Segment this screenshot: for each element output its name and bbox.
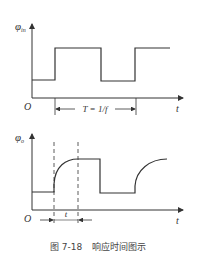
bottom-x-label: t	[176, 215, 179, 226]
bottom-plot: φo O t t	[15, 131, 183, 226]
top-x-label: t	[176, 103, 179, 114]
top-plot: φin O t T = 1/f	[15, 20, 183, 115]
top-origin-label: O	[24, 101, 31, 112]
figure-canvas: φin O t T = 1/f φo O t t 图 7-18响应时间图示	[0, 0, 197, 263]
bottom-origin-label: O	[24, 213, 31, 224]
bottom-y-label: φo	[15, 131, 24, 144]
input-square-wave	[32, 48, 170, 81]
top-y-label: φin	[15, 20, 26, 33]
period-label: T = 1/f	[83, 104, 109, 114]
output-response-curve	[32, 159, 167, 193]
figure-caption: 图 7-18响应时间图示	[50, 241, 146, 252]
